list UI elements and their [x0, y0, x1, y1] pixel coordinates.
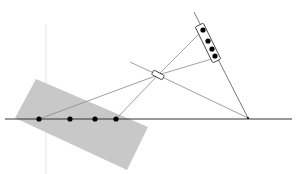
object-point [67, 116, 72, 121]
focal-point [247, 117, 249, 119]
object-point [92, 116, 97, 121]
ray-line [116, 75, 158, 119]
image-point [209, 46, 214, 51]
image-point [200, 27, 205, 32]
object-point [113, 116, 118, 121]
lens [152, 70, 165, 80]
shaded-region [15, 79, 148, 170]
ray-line [158, 75, 248, 118]
object-point [36, 116, 41, 121]
projection-diagram [0, 0, 296, 174]
image-point [212, 53, 217, 58]
image-point [205, 38, 210, 43]
